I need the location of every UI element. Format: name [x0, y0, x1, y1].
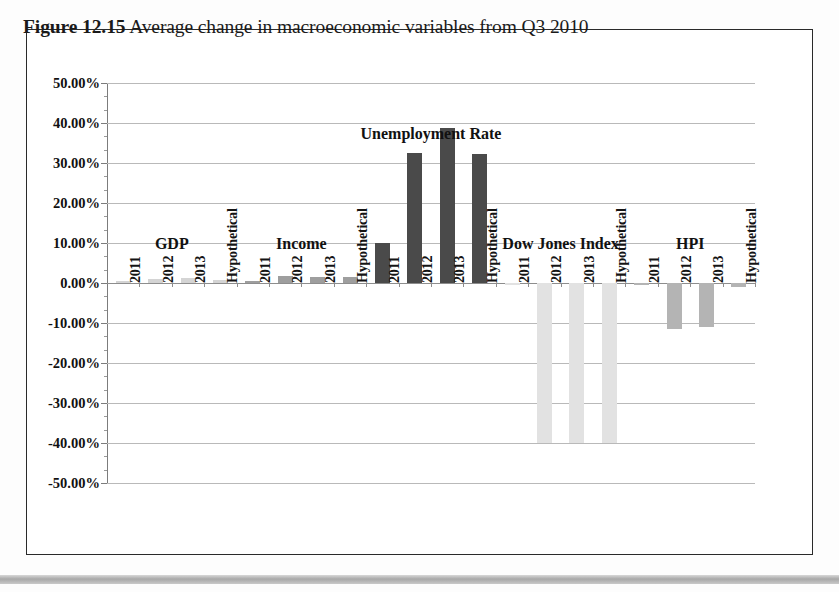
bar-hpi-hypothetical — [731, 283, 746, 287]
x-tick — [723, 283, 724, 287]
figure-number: Figure 12.15 — [23, 16, 125, 37]
x-axis-label-2011: 2011 — [517, 257, 533, 283]
y-axis-tick-label: -20.00% — [48, 355, 100, 372]
x-tick — [172, 283, 173, 287]
x-tick — [334, 283, 335, 287]
page-footer-rule — [0, 575, 839, 584]
y-axis-labels: 50.00%40.00%30.00%20.00%10.00%0.00%-10.0… — [0, 83, 100, 483]
y-axis-tick-label: -40.00% — [48, 435, 100, 452]
x-axis-label-2011: 2011 — [128, 257, 144, 283]
bar-hpi-2011 — [634, 283, 649, 285]
x-axis-label-2011: 2011 — [387, 257, 403, 283]
y-axis-tick-label: 40.00% — [53, 115, 100, 132]
x-tick — [237, 283, 238, 287]
x-tick — [496, 283, 497, 287]
x-axis-label-2013: 2013 — [582, 256, 598, 283]
y-axis-tick-label: -10.00% — [48, 315, 100, 332]
bar-hpi-2013 — [699, 283, 714, 327]
x-tick — [399, 283, 400, 287]
x-axis-label-2011: 2011 — [647, 257, 663, 283]
x-tick — [366, 283, 367, 287]
x-axis-label-2012: 2012 — [290, 256, 306, 283]
x-tick — [593, 283, 594, 287]
x-tick — [139, 283, 140, 287]
group-title-unemployment-rate: Unemployment Rate — [361, 125, 502, 143]
x-tick — [528, 283, 529, 287]
bar-dow-jones-index-2012 — [537, 283, 552, 443]
x-axis-label-hypothetical: Hypothetical — [225, 208, 241, 283]
y-axis-tick-label: 0.00% — [60, 275, 100, 292]
x-tick — [561, 283, 562, 287]
x-axis-label-2012: 2012 — [161, 256, 177, 283]
x-axis-label-2012: 2012 — [549, 256, 565, 283]
figure-caption-text: Average change in macroeconomic variable… — [129, 16, 588, 37]
x-tick — [431, 283, 432, 287]
x-tick — [269, 283, 270, 287]
x-tick — [755, 283, 756, 287]
x-axis-label-hypothetical: Hypothetical — [355, 208, 371, 283]
y-axis-tick-label: -30.00% — [48, 395, 100, 412]
group-title-gdp: GDP — [155, 235, 189, 253]
x-axis-label-2013: 2013 — [711, 256, 727, 283]
x-axis-label-2013: 2013 — [452, 256, 468, 283]
x-tick — [625, 283, 626, 287]
y-axis-tick-label: -50.00% — [48, 475, 100, 492]
gridline--50 — [107, 483, 755, 484]
x-tick — [301, 283, 302, 287]
x-axis-label-2011: 2011 — [258, 257, 274, 283]
x-axis-label-2013: 2013 — [323, 256, 339, 283]
y-axis-tick-label: 50.00% — [53, 75, 100, 92]
x-tick — [690, 283, 691, 287]
bar-dow-jones-index-hypothetical — [602, 283, 617, 443]
x-axis-label-2012: 2012 — [679, 256, 695, 283]
bar-dow-jones-index-2013 — [569, 283, 584, 443]
figure-caption: Figure 12.15 Average change in macroecon… — [23, 16, 589, 38]
y-axis-tick-label: 20.00% — [53, 195, 100, 212]
group-title-dow-jones-index: Dow Jones Index — [502, 235, 618, 253]
x-tick — [463, 283, 464, 287]
x-tick — [658, 283, 659, 287]
plot-area — [107, 83, 755, 483]
bar-dow-jones-index-2011 — [505, 283, 520, 285]
x-axis-label-2013: 2013 — [193, 256, 209, 283]
figure-page: Figure 12.15 Average change in macroecon… — [0, 0, 839, 592]
x-axis-label-hypothetical: Hypothetical — [485, 208, 501, 283]
y-axis-tick-label: 30.00% — [53, 155, 100, 172]
x-axis-label-hypothetical: Hypothetical — [744, 208, 760, 283]
group-title-hpi: HPI — [676, 235, 704, 253]
bar-series — [107, 83, 755, 483]
x-tick — [204, 283, 205, 287]
y-axis-tick-label: 10.00% — [53, 235, 100, 252]
group-title-income: Income — [276, 235, 327, 253]
bar-hpi-2012 — [667, 283, 682, 329]
x-axis-label-2012: 2012 — [420, 256, 436, 283]
